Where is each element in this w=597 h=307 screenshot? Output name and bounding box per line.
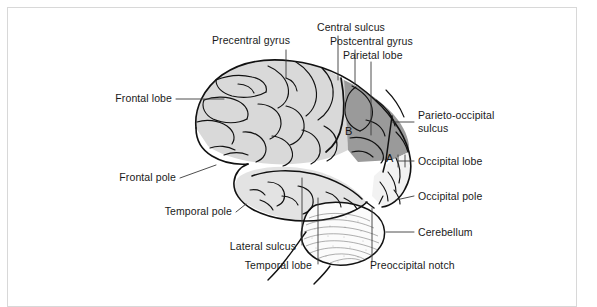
- label-temporal-pole: Temporal pole: [150, 205, 232, 218]
- label-occipital-lobe: Occipital lobe: [418, 155, 482, 168]
- label-temporal-lobe: Temporal lobe: [230, 259, 312, 272]
- label-precentral-gyrus: Precentral gyrus: [204, 34, 290, 47]
- leader-temporal-pole: [236, 204, 246, 212]
- parietal-lobe-region: [344, 80, 409, 162]
- leader-frontal-pole: [180, 165, 216, 178]
- label-frontal-pole: Frontal pole: [100, 171, 176, 184]
- preoccipital-notch-line: [366, 202, 374, 208]
- label-parieto-occipital-sulcus: Parieto-occipital sulcus: [418, 109, 494, 134]
- brainstem-outline-2: [314, 266, 330, 284]
- label-lateral-sulcus: Lateral sulcus: [216, 240, 296, 253]
- label-postcentral-gyrus: Postcentral gyrus: [330, 35, 413, 48]
- frontal-lobe-region: [196, 60, 348, 164]
- label-cerebellum: Cerebellum: [418, 226, 473, 239]
- label-central-sulcus: Central sulcus: [317, 21, 385, 34]
- label-frontal-lobe: Frontal lobe: [96, 92, 172, 105]
- label-preoccipital-notch: Preoccipital notch: [370, 259, 455, 272]
- label-parietal-lobe: Parietal lobe: [343, 49, 403, 62]
- label-parieto-occipital-sulcus-line2: sulcus: [418, 122, 448, 134]
- marker-label-b: B: [345, 125, 352, 137]
- label-occipital-pole: Occipital pole: [418, 190, 482, 203]
- marker-label-a: A: [386, 152, 393, 164]
- label-parieto-occipital-sulcus-line1: Parieto-occipital: [418, 109, 494, 121]
